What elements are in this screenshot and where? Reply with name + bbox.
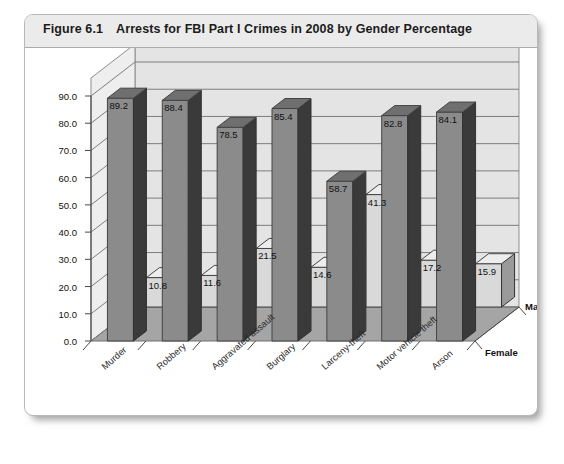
chart-plot-area: 0.010.020.030.040.050.060.070.080.090.01… <box>25 48 537 414</box>
y-axis-tick-label: 20.0 <box>25 281 77 292</box>
chart-bar-value-label: 84.1 <box>439 114 458 125</box>
y-axis-tick-label: 10.0 <box>25 308 77 319</box>
y-axis-tick-label: 0.0 <box>25 336 77 347</box>
y-axis-tick-label: 40.0 <box>25 227 77 238</box>
y-axis-tick-label: 80.0 <box>25 118 77 129</box>
figure-header: Figure 6.1Arrests for FBI Part I Crimes … <box>25 15 537 48</box>
series-label-female: Female <box>485 347 518 358</box>
chart-bar-value-label: 89.2 <box>109 100 128 111</box>
x-axis-tick-mark <box>138 341 146 350</box>
series-label-male: Male <box>525 301 538 312</box>
chart-bar-side <box>463 102 476 341</box>
chart-bar-side <box>298 99 311 341</box>
chart-bar <box>272 109 298 341</box>
chart-bar <box>217 127 243 341</box>
chart-bar <box>382 116 408 341</box>
chart-bar-value-label: 88.4 <box>164 102 183 113</box>
chart-bar-value-label: 82.8 <box>384 118 403 129</box>
chart-bar-value-label: 15.9 <box>478 266 497 277</box>
figure-number: Figure 6.1 <box>43 22 103 36</box>
figure-title: Arrests for FBI Part I Crimes in 2008 by… <box>116 22 472 36</box>
x-axis-tick-mark <box>83 341 91 350</box>
x-axis-tick-mark <box>467 341 475 350</box>
y-axis-tick-label: 60.0 <box>25 172 77 183</box>
y-axis-tick-label: 90.0 <box>25 91 77 102</box>
y-axis-tick-label: 50.0 <box>25 199 77 210</box>
chart-bar-side <box>353 171 366 341</box>
chart-bar-value-label: 78.5 <box>219 129 238 140</box>
chart-bar-side <box>243 117 256 341</box>
x-axis-tick-mark <box>302 341 310 350</box>
chart-bar-value-label: 10.8 <box>148 280 167 291</box>
chart-bar-side <box>133 88 146 341</box>
x-axis-tick-mark <box>193 341 201 350</box>
figure-caption: Figure 6.1Arrests for FBI Part I Crimes … <box>43 22 472 36</box>
chart-bar-side <box>408 106 421 341</box>
chart-bar-value-label: 41.3 <box>368 197 387 208</box>
chart-bar <box>107 98 133 341</box>
chart-bar-side <box>188 90 201 341</box>
chart-bar <box>437 112 463 341</box>
chart-bar <box>327 181 353 341</box>
depth-axis-tick-mark <box>475 341 482 349</box>
chart-bar-value-label: 17.2 <box>423 262 442 273</box>
chart-bar-value-label: 14.6 <box>313 269 332 280</box>
chart-bar-value-label: 85.4 <box>274 111 293 122</box>
y-axis-tick-label: 70.0 <box>25 145 77 156</box>
chart-bar-value-label: 58.7 <box>329 183 348 194</box>
chart-bar <box>162 100 188 341</box>
chart-bar-value-label: 21.5 <box>258 250 277 261</box>
y-axis-tick-label: 30.0 <box>25 254 77 265</box>
chart-bar-value-label: 11.6 <box>203 277 221 288</box>
figure-card: Figure 6.1Arrests for FBI Part I Crimes … <box>24 14 538 416</box>
